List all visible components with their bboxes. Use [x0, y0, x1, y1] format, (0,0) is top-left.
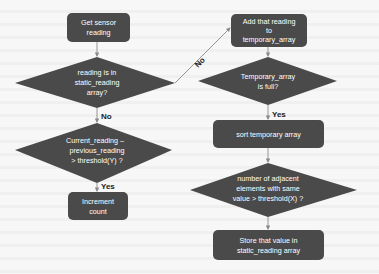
node-get-sensor-reading: Get sensor reading [67, 13, 130, 42]
node-text-line: count [89, 207, 107, 216]
decision-reading-difference-threshold: Current_reading – previous_reading > thr… [15, 123, 172, 183]
node-text-line: Temporary_array [241, 72, 296, 81]
node-text-line: static_reading array [237, 246, 301, 255]
node-store-in-static-array: Store that value in static_reading array [213, 230, 324, 260]
node-text-line: array? [87, 88, 107, 97]
edge-label-no-down: No [101, 112, 112, 121]
node-text-line: sort temporary array [236, 130, 301, 139]
node-text-line: is full? [258, 82, 278, 91]
decision-temporary-array-full: Temporary_array is full? [198, 57, 337, 105]
node-sort-temporary-array: sort temporary array [213, 120, 324, 148]
node-text-line: previous_reading [69, 146, 124, 155]
node-text-line: value > threshold(X) ? [233, 194, 304, 203]
node-text-line: elements with same [236, 184, 300, 193]
edge-label-yes-sort: Yes [272, 110, 286, 119]
node-text-line: Add that reading [243, 17, 296, 26]
decision-adjacent-elements-threshold: number of adjacent elements with same va… [190, 163, 357, 217]
edge-label-yes-increment: Yes [101, 182, 115, 191]
node-text-line: reading [87, 28, 111, 37]
node-text-line: to [266, 26, 272, 35]
node-text-line: static_reading [75, 78, 120, 87]
node-text-line: > threshold(Y) ? [71, 156, 122, 165]
node-text-line: Current_reading – [66, 136, 124, 145]
node-text-line: temporary_array [243, 35, 296, 44]
node-text-line: number of adjacent [237, 174, 299, 183]
node-text-line: reading is in [78, 68, 117, 77]
decision-reading-in-static-array: reading is in static_reading array? [15, 57, 175, 108]
node-increment-count: Increment count [68, 192, 128, 220]
node-text-line: Get sensor [81, 18, 117, 27]
flowchart: No No Yes Yes Get sensor reading reading… [0, 0, 379, 274]
node-add-to-temporary-array: Add that reading to temporary_array [231, 14, 307, 47]
edge-label-no-diagonal: No [193, 55, 207, 69]
node-text-line: Increment [82, 197, 114, 206]
node-text-line: Store that value in [240, 236, 298, 245]
